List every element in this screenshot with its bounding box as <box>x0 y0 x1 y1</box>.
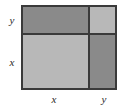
cell-bottom-right-xy <box>88 33 115 88</box>
label-left-top-y: y <box>6 15 18 26</box>
label-left-bottom-x: x <box>6 57 18 68</box>
cell-top-left-xy <box>23 7 88 33</box>
vertical-divider-line <box>88 7 90 88</box>
outer-square <box>21 5 117 90</box>
cell-bottom-left-x-squared <box>23 33 88 88</box>
horizontal-divider-line <box>23 33 115 35</box>
label-bottom-right-y: y <box>98 94 110 105</box>
label-bottom-left-x: x <box>48 94 60 105</box>
cell-top-right-y-squared <box>88 7 115 33</box>
area-model-figure: y x x y <box>0 0 128 112</box>
